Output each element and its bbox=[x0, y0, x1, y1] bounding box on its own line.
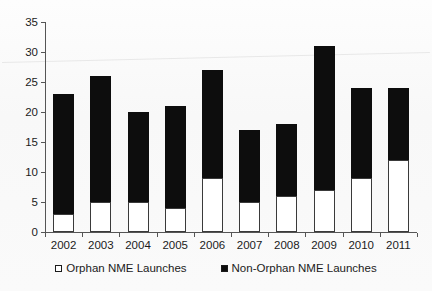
bar-stack bbox=[314, 46, 335, 232]
bar-segment-non-orphan bbox=[388, 88, 409, 160]
bar-segment-non-orphan bbox=[90, 76, 111, 202]
x-axis-tick-label: 2003 bbox=[81, 239, 121, 252]
bar-segment-orphan bbox=[388, 160, 409, 232]
y-axis-tick: 30 bbox=[0, 46, 51, 58]
y-axis-tick: 10 bbox=[0, 166, 51, 178]
bar-stack bbox=[351, 88, 372, 232]
y-axis-tick-label: 10 bbox=[0, 166, 38, 178]
bar-segment-orphan bbox=[53, 214, 74, 232]
x-axis-tick-label: 2005 bbox=[155, 239, 195, 252]
x-axis-tick-mark bbox=[417, 233, 418, 237]
bar-stack bbox=[239, 130, 260, 232]
x-axis-tick-mark bbox=[305, 233, 306, 237]
y-axis-tick-label: 30 bbox=[0, 46, 38, 58]
plot-area: 05101520253035 2002200320042005200620072… bbox=[45, 22, 417, 233]
y-axis-tick-label: 15 bbox=[0, 136, 38, 148]
x-axis-tick-mark bbox=[45, 233, 46, 237]
bar-segment-non-orphan bbox=[165, 106, 186, 208]
y-axis-tick-label: 35 bbox=[0, 16, 38, 28]
x-axis-tick-mark bbox=[157, 233, 158, 237]
x-axis-tick-mark bbox=[380, 233, 381, 237]
x-axis-tick-mark bbox=[231, 233, 232, 237]
x-axis-tick-label: 2010 bbox=[341, 239, 381, 252]
bar-segment-orphan bbox=[314, 190, 335, 232]
bar-segment-non-orphan bbox=[128, 112, 149, 202]
legend-swatch-hollow-square-icon bbox=[55, 265, 62, 272]
y-axis-tick-mark bbox=[41, 22, 45, 23]
x-axis-tick-mark bbox=[194, 233, 195, 237]
x-axis-tick-label: 2007 bbox=[230, 239, 270, 252]
legend-label-non-orphan: Non-Orphan NME Launches bbox=[232, 262, 377, 275]
bar-segment-orphan bbox=[239, 202, 260, 232]
bar-stack bbox=[388, 88, 409, 232]
y-axis-tick: 5 bbox=[0, 196, 51, 208]
bar-stack bbox=[53, 94, 74, 232]
x-axis-tick-label: 2009 bbox=[304, 239, 344, 252]
bar-stack bbox=[128, 112, 149, 232]
y-axis-tick-mark bbox=[41, 112, 45, 113]
y-axis-tick-mark bbox=[41, 202, 45, 203]
x-axis-tick-mark bbox=[119, 233, 120, 237]
bar-segment-orphan bbox=[202, 178, 223, 232]
bar-stack bbox=[90, 76, 111, 232]
x-axis-tick-mark bbox=[268, 233, 269, 237]
y-axis-tick-label: 0 bbox=[0, 226, 38, 238]
y-axis-tick-mark bbox=[41, 142, 45, 143]
x-axis-tick-mark bbox=[82, 233, 83, 237]
bar-stack bbox=[202, 70, 223, 232]
y-axis-tick: 20 bbox=[0, 106, 51, 118]
bar-segment-non-orphan bbox=[53, 94, 74, 214]
x-axis-tick-label: 2004 bbox=[118, 239, 158, 252]
x-axis-tick-label: 2008 bbox=[267, 239, 307, 252]
bar-stack bbox=[276, 124, 297, 232]
bar-segment-orphan bbox=[165, 208, 186, 232]
legend-swatch-filled-square-icon bbox=[221, 265, 228, 272]
y-axis-tick-mark bbox=[41, 82, 45, 83]
bar-segment-non-orphan bbox=[351, 88, 372, 178]
y-axis-tick: 25 bbox=[0, 76, 51, 88]
legend-label-orphan: Orphan NME Launches bbox=[66, 262, 186, 275]
y-axis-tick-mark bbox=[41, 52, 45, 53]
bar-segment-orphan bbox=[90, 202, 111, 232]
x-axis-tick-label: 2002 bbox=[44, 239, 84, 252]
bar-stack bbox=[165, 106, 186, 232]
bar-segment-orphan bbox=[128, 202, 149, 232]
y-axis-tick-mark bbox=[41, 172, 45, 173]
x-axis-tick-label: 2006 bbox=[192, 239, 232, 252]
bar-segment-non-orphan bbox=[314, 46, 335, 190]
chart-legend: Orphan NME Launches Non-Orphan NME Launc… bbox=[0, 262, 432, 275]
legend-item-orphan: Orphan NME Launches bbox=[55, 262, 186, 275]
bar-segment-orphan bbox=[276, 196, 297, 232]
bar-segment-non-orphan bbox=[239, 130, 260, 202]
legend-item-non-orphan: Non-Orphan NME Launches bbox=[221, 262, 377, 275]
y-axis-tick-label: 5 bbox=[0, 196, 38, 208]
bar-segment-non-orphan bbox=[276, 124, 297, 196]
y-axis-tick-label: 20 bbox=[0, 106, 38, 118]
x-axis-tick-label: 2011 bbox=[378, 239, 418, 252]
y-axis-tick-label: 25 bbox=[0, 76, 38, 88]
y-axis-tick: 35 bbox=[0, 16, 51, 28]
y-axis-tick: 15 bbox=[0, 136, 51, 148]
chart-page: 05101520253035 2002200320042005200620072… bbox=[0, 0, 432, 291]
x-axis-tick-mark bbox=[343, 233, 344, 237]
bar-segment-non-orphan bbox=[202, 70, 223, 178]
bar-segment-orphan bbox=[351, 178, 372, 232]
y-axis-tick: 0 bbox=[0, 226, 51, 238]
